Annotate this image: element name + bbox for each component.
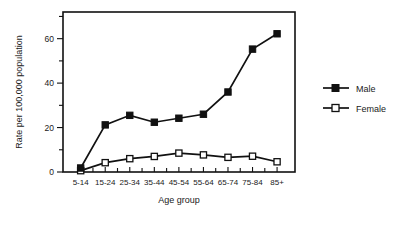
x-tick-label: 65-74 [218, 178, 239, 187]
data-point-female [127, 156, 133, 162]
data-point-male [274, 31, 280, 37]
data-point-male [176, 115, 182, 121]
data-point-male [151, 119, 157, 125]
y-tick-label: 20 [45, 123, 55, 133]
data-point-female [225, 154, 231, 160]
x-axis-title: Age group [158, 195, 200, 205]
x-tick-label: 85+ [270, 178, 284, 187]
data-point-male [200, 111, 206, 117]
legend-entry-female[interactable]: Female [323, 104, 386, 114]
data-point-female [274, 159, 280, 165]
data-point-male [127, 112, 133, 118]
data-point-male [225, 89, 231, 95]
data-point-male [77, 165, 83, 171]
data-point-male [249, 46, 255, 52]
legend-label-female: Female [356, 104, 386, 114]
y-tick-label: 0 [49, 167, 54, 177]
x-tick-label: 45-54 [169, 178, 190, 187]
x-tick-label: 75-84 [242, 178, 263, 187]
y-tick-label: 60 [45, 34, 55, 44]
chart-container: 0204060 5-1415-2425-3435-4445-5455-6465-… [0, 0, 396, 225]
legend: Male Female [323, 84, 386, 114]
data-point-female [102, 160, 108, 166]
y-tick-label: 40 [45, 78, 55, 88]
line-chart-svg: 0204060 5-1415-2425-3435-4445-5455-6465-… [0, 0, 396, 225]
plot-frame [63, 12, 295, 172]
y-axis-tick-labels: 0204060 [45, 34, 55, 177]
x-tick-label: 55-64 [193, 178, 214, 187]
x-axis-tick-labels: 5-1415-2425-3435-4445-5455-6465-7475-848… [73, 178, 285, 187]
data-point-female [200, 152, 206, 158]
data-point-male [102, 122, 108, 128]
series-line-male [81, 34, 277, 168]
y-axis-title: Rate per 100,000 population [14, 35, 24, 149]
data-point-female [176, 150, 182, 156]
legend-entry-male[interactable]: Male [323, 84, 376, 94]
x-tick-label: 25-34 [120, 178, 141, 187]
legend-marker-male [332, 85, 339, 92]
y-axis-ticks [57, 16, 63, 172]
legend-marker-female [332, 105, 339, 112]
data-point-female [249, 153, 255, 159]
x-tick-label: 5-14 [73, 178, 90, 187]
data-point-female [151, 153, 157, 159]
x-tick-label: 15-24 [95, 178, 116, 187]
x-tick-label: 35-44 [144, 178, 165, 187]
legend-label-male: Male [356, 84, 376, 94]
